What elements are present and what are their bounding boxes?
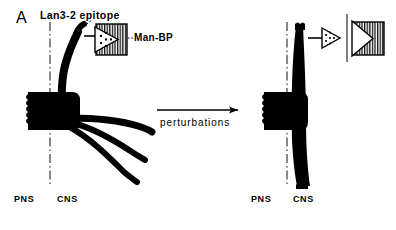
man-bp-label: Man-BP xyxy=(134,33,173,43)
left-panel-artwork xyxy=(26,20,152,186)
epitope-dot xyxy=(329,31,331,33)
axon-tip-right xyxy=(295,23,305,31)
figure-panel-a: A Lan3-2 epitope Man-BP perturbations PN… xyxy=(0,0,396,230)
epitope-dot xyxy=(100,35,102,37)
region-label-cns-left: CNS xyxy=(57,195,78,204)
epitope-dot xyxy=(105,45,107,47)
epitope-dot xyxy=(105,32,107,34)
epitope-dot xyxy=(329,42,331,44)
region-label-cns-right: CNS xyxy=(293,195,314,204)
epitope-dot xyxy=(325,34,327,36)
perturbation-arrow xyxy=(157,107,238,114)
right-panel-artwork xyxy=(262,14,384,189)
epitope-dot xyxy=(325,40,327,42)
epitope-label: Lan3-2 epitope xyxy=(40,10,120,21)
epitope-dot xyxy=(100,42,102,44)
epitope-dot xyxy=(105,38,107,40)
epitope-dot xyxy=(329,37,331,39)
region-label-pns-right: PNS xyxy=(251,195,271,204)
epitope-dot xyxy=(333,37,335,39)
epitope-dot xyxy=(110,38,112,40)
perturbations-label: perturbations xyxy=(160,118,230,128)
region-label-pns-left: PNS xyxy=(14,195,34,204)
panel-letter: A xyxy=(16,10,27,26)
